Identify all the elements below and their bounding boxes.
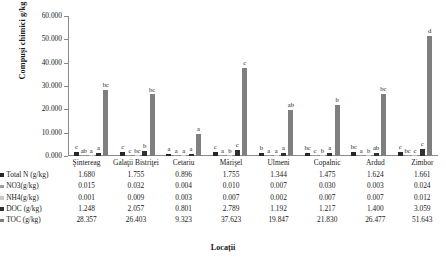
- bar-item[interactable]: a: [189, 16, 194, 156]
- bar[interactable]: [405, 155, 410, 156]
- bar[interactable]: [150, 94, 155, 156]
- bar-item[interactable]: b: [227, 16, 232, 156]
- legend-entry[interactable]: TOC (g/kg): [0, 214, 61, 225]
- bar-item[interactable]: c: [420, 16, 425, 156]
- bar-item[interactable]: c: [120, 16, 125, 156]
- bar-item[interactable]: a: [359, 16, 364, 156]
- bar-item[interactable]: b: [320, 16, 325, 156]
- bar[interactable]: [242, 68, 247, 156]
- bar-item[interactable]: a: [174, 16, 179, 156]
- bar[interactable]: [312, 155, 317, 156]
- bar-item[interactable]: a: [181, 16, 186, 156]
- bar[interactable]: [266, 155, 271, 156]
- bar[interactable]: [120, 152, 125, 156]
- bar-item[interactable]: b: [366, 16, 371, 156]
- bar-item[interactable]: c: [213, 16, 218, 156]
- bar-item[interactable]: a: [281, 16, 286, 156]
- bar[interactable]: [227, 155, 232, 156]
- bar-item[interactable]: c: [242, 16, 247, 156]
- table-cell: 1.192: [255, 203, 302, 214]
- legend-entry[interactable]: NO3(g/kg): [0, 180, 61, 191]
- bar-item[interactable]: a: [89, 16, 94, 156]
- bar[interactable]: [181, 155, 186, 156]
- significance-letter: c: [421, 141, 424, 148]
- legend-label: NH4(g/kg): [6, 193, 38, 202]
- table-cell: 37.623: [207, 214, 255, 225]
- bar[interactable]: [196, 134, 201, 156]
- bar[interactable]: [381, 94, 386, 156]
- bar-item[interactable]: d: [427, 16, 432, 156]
- bar[interactable]: [166, 154, 171, 156]
- bar[interactable]: [235, 150, 240, 157]
- bar[interactable]: [374, 153, 379, 156]
- bar[interactable]: [74, 152, 79, 156]
- bar-item[interactable]: a: [220, 16, 225, 156]
- bar-item[interactable]: bc: [103, 16, 108, 156]
- bar[interactable]: [398, 152, 403, 156]
- bar[interactable]: [305, 153, 310, 156]
- bar[interactable]: [366, 155, 371, 156]
- bar-item[interactable]: bc: [351, 16, 356, 156]
- bar-item[interactable]: ab: [81, 16, 86, 156]
- significance-letter: b: [228, 148, 231, 155]
- bar-item[interactable]: ab: [374, 16, 379, 156]
- table-cell: 0.030: [302, 180, 352, 191]
- significance-letter: bc: [380, 86, 386, 93]
- bar[interactable]: [89, 155, 94, 156]
- bar-item[interactable]: a: [166, 16, 171, 156]
- bar-item[interactable]: a: [327, 16, 332, 156]
- bar-item[interactable]: bc: [135, 16, 140, 156]
- bar[interactable]: [142, 151, 147, 156]
- bar[interactable]: [96, 153, 101, 156]
- bar[interactable]: [259, 153, 264, 156]
- legend-entry[interactable]: NH4(g/kg): [0, 191, 61, 202]
- bar-item[interactable]: c: [312, 16, 317, 156]
- y-tick-label: 10.000: [16, 129, 62, 136]
- bar[interactable]: [351, 152, 356, 156]
- bar[interactable]: [174, 155, 179, 156]
- bar[interactable]: [327, 153, 332, 156]
- bar-item[interactable]: b: [335, 16, 340, 156]
- bar[interactable]: [213, 152, 218, 156]
- bar-item[interactable]: a: [96, 16, 101, 156]
- bar-item[interactable]: c: [127, 16, 132, 156]
- bar-item[interactable]: a: [196, 16, 201, 156]
- bar-item[interactable]: a: [274, 16, 279, 156]
- bar[interactable]: [320, 155, 325, 156]
- bar-item[interactable]: bc: [305, 16, 310, 156]
- significance-letter: bc: [134, 148, 140, 155]
- bar-group: aaaaa: [161, 16, 207, 156]
- bar-item[interactable]: c: [235, 16, 240, 156]
- bar[interactable]: [420, 149, 425, 156]
- bar-item[interactable]: c: [398, 16, 403, 156]
- legend-entry[interactable]: Total N (g/kg): [0, 169, 61, 180]
- bar[interactable]: [274, 155, 279, 156]
- bar[interactable]: [427, 36, 432, 157]
- bar[interactable]: [127, 155, 132, 156]
- bar-item[interactable]: bc: [381, 16, 386, 156]
- bar-item[interactable]: bc: [405, 16, 410, 156]
- significance-letter: a: [167, 146, 170, 153]
- bar-item[interactable]: a: [266, 16, 271, 156]
- bar[interactable]: [103, 90, 108, 156]
- bar[interactable]: [335, 105, 340, 156]
- bar-item[interactable]: b: [142, 16, 147, 156]
- bar-item[interactable]: ab: [288, 16, 293, 156]
- bar[interactable]: [135, 155, 140, 156]
- table-row: NH4(g/kg)0.0010.0090.0030.0070.0020.0070…: [0, 191, 446, 202]
- bar[interactable]: [359, 155, 364, 156]
- table-row: DOC (g/kg)1.2482.0570.8012.7891.1921.217…: [0, 203, 446, 214]
- bar-item[interactable]: c: [412, 16, 417, 156]
- bar-group: baaaab: [253, 16, 299, 156]
- bar[interactable]: [189, 154, 194, 156]
- bar[interactable]: [288, 110, 293, 156]
- bar-item[interactable]: bc: [150, 16, 155, 156]
- bar-item[interactable]: b: [259, 16, 264, 156]
- bar[interactable]: [281, 153, 286, 156]
- bar-item[interactable]: c: [74, 16, 79, 156]
- bar[interactable]: [412, 155, 417, 156]
- bar[interactable]: [220, 155, 225, 156]
- bar-groups: cabaabcccbcbbcaaaaacabccbaaaabbccbabbcab…: [68, 16, 438, 156]
- legend-entry[interactable]: DOC (g/kg): [0, 203, 61, 214]
- bar[interactable]: [81, 155, 86, 156]
